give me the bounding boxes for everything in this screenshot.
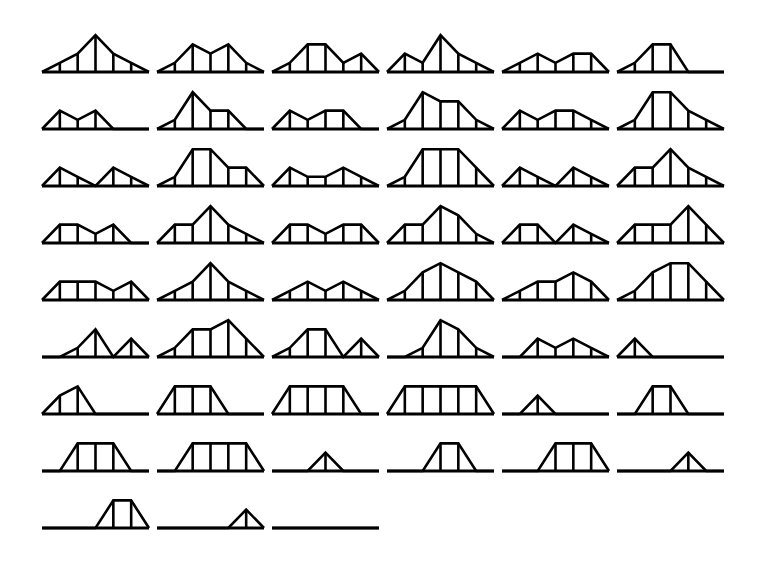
- figure-root: [0, 0, 757, 588]
- frequency-polyline: [42, 386, 149, 414]
- frequency-polygon-panel: [153, 22, 268, 79]
- frequency-polygon-panel: [268, 307, 383, 364]
- frequency-polygon-panel: [613, 421, 728, 478]
- frequency-polyline: [42, 500, 149, 528]
- frequency-polygon-panel: [268, 193, 383, 250]
- frequency-polygon-panel: [613, 364, 728, 421]
- frequency-polygon-panel: [498, 250, 613, 307]
- frequency-polygon-panel: [268, 421, 383, 478]
- frequency-polygon-panel: [383, 307, 498, 364]
- frequency-polygon-panel: [383, 79, 498, 136]
- frequency-polygon-panel: [268, 364, 383, 421]
- frequency-polygon-panel: [498, 79, 613, 136]
- frequency-polygon-grid: [0, 0, 757, 588]
- frequency-polygon-panel: [383, 193, 498, 250]
- frequency-polygon-panel: [498, 421, 613, 478]
- frequency-polygon-panel: [383, 22, 498, 79]
- frequency-polygon-panel: [498, 364, 613, 421]
- frequency-polygon-panel: [38, 364, 153, 421]
- frequency-polygon-panel: [268, 478, 383, 535]
- frequency-polyline: [42, 168, 149, 186]
- frequency-polygon-panel: [153, 250, 268, 307]
- frequency-polygon-panel: [383, 250, 498, 307]
- frequency-polygon-panel: [268, 79, 383, 136]
- frequency-polyline: [157, 510, 264, 528]
- frequency-polygon-panel: [498, 136, 613, 193]
- frequency-polygon-panel: [498, 193, 613, 250]
- frequency-polygon-panel: [153, 136, 268, 193]
- frequency-polygon-panel: [38, 307, 153, 364]
- frequency-polygon-panel: [613, 307, 728, 364]
- frequency-polyline: [617, 339, 724, 357]
- frequency-polygon-panel: [153, 193, 268, 250]
- frequency-polygon-panel: [38, 250, 153, 307]
- frequency-polygon-panel: [268, 22, 383, 79]
- frequency-polygon-panel: [153, 421, 268, 478]
- frequency-polygon-panel: [498, 22, 613, 79]
- frequency-polygon-panel: [38, 79, 153, 136]
- frequency-polygon-panel: [268, 250, 383, 307]
- frequency-polyline: [502, 168, 609, 186]
- frequency-polyline: [502, 225, 609, 243]
- frequency-polygon-panel: [613, 79, 728, 136]
- frequency-polygon-panel: [383, 136, 498, 193]
- frequency-polygon-panel: [38, 421, 153, 478]
- frequency-polygon-panel: [613, 136, 728, 193]
- frequency-polygon-panel: [38, 193, 153, 250]
- frequency-polygon-panel: [153, 478, 268, 535]
- frequency-polygon-panel: [613, 250, 728, 307]
- frequency-polygon-panel: [268, 136, 383, 193]
- frequency-polygon-panel: [613, 193, 728, 250]
- frequency-polygon-panel: [38, 478, 153, 535]
- frequency-polygon-panel: [153, 307, 268, 364]
- frequency-polygon-panel: [38, 22, 153, 79]
- frequency-polyline: [502, 396, 609, 414]
- frequency-polygon-panel: [498, 307, 613, 364]
- frequency-polygon-panel: [38, 136, 153, 193]
- frequency-polygon-panel: [153, 364, 268, 421]
- frequency-polyline: [617, 453, 724, 471]
- frequency-polygon-panel: [153, 79, 268, 136]
- frequency-polygon-panel: [613, 22, 728, 79]
- frequency-polygon-panel: [383, 421, 498, 478]
- frequency-polygon-panel: [383, 364, 498, 421]
